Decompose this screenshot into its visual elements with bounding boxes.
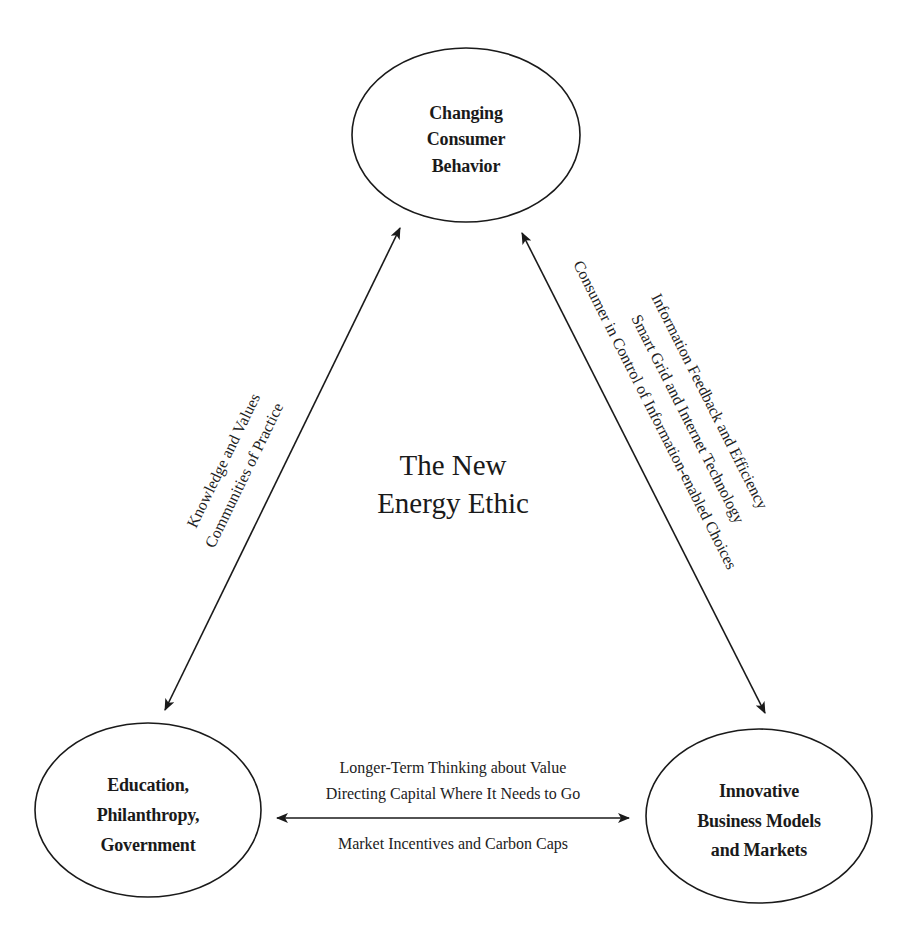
center-label-line1: The New xyxy=(399,449,506,481)
node-label-line: Education, xyxy=(107,775,189,795)
node-label-line: Innovative xyxy=(719,781,799,801)
edge-left: Knowledge and Values Communities of Prac… xyxy=(165,228,400,710)
node-label-line: Behavior xyxy=(432,156,501,176)
node-label-line: and Markets xyxy=(711,840,807,860)
double-arrow-left xyxy=(165,228,400,710)
node-changing-consumer-behavior: Changing Consumer Behavior xyxy=(352,48,580,222)
node-label-line: Changing xyxy=(429,103,503,123)
node-label-line: Business Models xyxy=(697,811,821,831)
edge-label: Directing Capital Where It Needs to Go xyxy=(326,785,581,803)
energy-ethic-diagram: Changing Consumer Behavior Education, Ph… xyxy=(0,0,907,943)
node-label-line: Philanthropy, xyxy=(97,805,200,825)
double-arrow-right xyxy=(522,233,765,713)
edge-label: Longer-Term Thinking about Value xyxy=(340,759,567,777)
edge-label: Market Incentives and Carbon Caps xyxy=(338,835,568,853)
edge-bottom: Longer-Term Thinking about Value Directi… xyxy=(277,759,629,853)
edge-right: Information Feedback and Efficiency Smar… xyxy=(522,233,771,713)
center-label-line2: Energy Ethic xyxy=(377,487,529,519)
center-label: The New Energy Ethic xyxy=(377,449,529,519)
node-label-line: Government xyxy=(101,835,196,855)
node-innovative-business-models: Innovative Business Models and Markets xyxy=(646,729,872,903)
node-label-line: Consumer xyxy=(427,129,506,149)
node-education-philanthropy-government: Education, Philanthropy, Government xyxy=(35,723,261,897)
